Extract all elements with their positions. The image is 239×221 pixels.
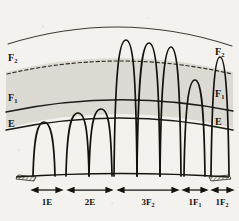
ionospheric-propagation-figure: [0, 0, 239, 221]
F2-label-left: F2: [8, 52, 18, 63]
hop-2E-a: [66, 113, 89, 176]
F1-label-left: F1: [8, 92, 18, 103]
hop-1E-a: [33, 122, 55, 176]
E-label-right: E: [215, 116, 222, 127]
F2-label-right: F2: [215, 46, 225, 57]
span-label-3F2: 3F2: [134, 197, 162, 207]
top-arc: [8, 27, 232, 46]
span-arrow-1E: [32, 188, 62, 193]
ground-line: [16, 174, 229, 178]
span-label-1F1: 1F1: [181, 197, 209, 207]
span-arrow-1F2: [212, 188, 233, 193]
span-label-1E: 1E: [33, 197, 61, 207]
span-label-1F2: 1F2: [208, 197, 236, 207]
E-label-left: E: [8, 118, 15, 129]
span-label-2E: 2E: [76, 197, 104, 207]
span-arrow-1F1: [183, 188, 207, 193]
F1-label-right: F1: [215, 88, 225, 99]
span-arrow-3F2: [118, 188, 178, 193]
span-arrow-2E: [68, 188, 112, 193]
span-arrow-group: [32, 188, 233, 193]
